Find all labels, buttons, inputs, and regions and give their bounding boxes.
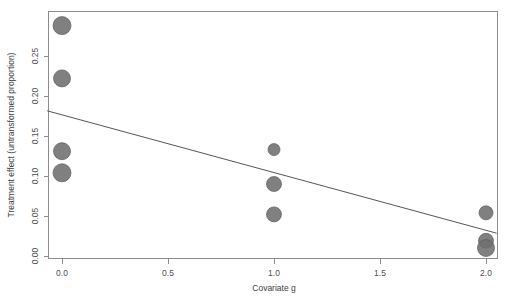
data-point-bubble	[268, 144, 280, 156]
y-tick-label-3: 0.15	[30, 127, 40, 144]
data-point-bubble	[53, 17, 71, 35]
x-axis-tick-labels: 0.0 0.5 1.0 1.5 2.0	[56, 268, 492, 278]
data-point-bubble	[54, 143, 71, 160]
y-tick-label-0: 0.00	[30, 247, 40, 264]
y-axis-title: Treatment effect (untransformed proporti…	[6, 52, 16, 217]
x-tick-label-0: 0.0	[56, 268, 68, 278]
x-axis-ticks	[63, 259, 487, 264]
data-point-series	[53, 17, 495, 257]
y-tick-label-1: 0.05	[30, 207, 40, 224]
x-axis-title: Covariate g	[252, 283, 296, 293]
y-axis-tick-labels: 0.00 0.05 0.10 0.15 0.20 0.25	[30, 47, 40, 264]
data-point-bubble	[267, 177, 282, 192]
data-point-bubble	[267, 207, 282, 222]
data-point-bubble	[478, 240, 495, 257]
x-tick-label-4: 2.0	[480, 268, 492, 278]
y-tick-label-2: 0.10	[30, 167, 40, 184]
data-point-bubble	[479, 206, 493, 220]
chart-canvas: 0.0 0.5 1.0 1.5 2.0 0.00 0.05 0.10 0.15 …	[0, 0, 515, 302]
x-tick-label-1: 0.5	[162, 268, 174, 278]
data-point-bubble	[54, 70, 71, 87]
y-axis-ticks	[44, 57, 49, 257]
x-tick-label-3: 1.5	[374, 268, 386, 278]
y-tick-label-5: 0.25	[30, 47, 40, 64]
y-tick-label-4: 0.20	[30, 87, 40, 104]
bubble-plot-figure: 0.0 0.5 1.0 1.5 2.0 0.00 0.05 0.10 0.15 …	[0, 0, 515, 302]
data-point-bubble	[53, 164, 71, 182]
x-tick-label-2: 1.0	[268, 268, 280, 278]
